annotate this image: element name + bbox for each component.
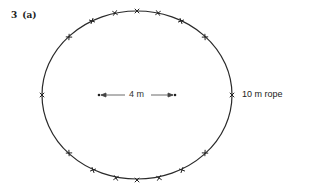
focus-point-left xyxy=(98,94,101,97)
question-number: 3 xyxy=(11,10,17,20)
focus-point-right xyxy=(174,94,177,97)
x-marker-icon xyxy=(89,18,95,24)
arrowhead-left-icon xyxy=(101,93,106,97)
question-part: (a) xyxy=(22,10,36,20)
arrowhead-right-icon xyxy=(168,93,173,97)
focal-distance-label: 4 m xyxy=(127,89,146,99)
question-label: 3(a) xyxy=(11,10,37,20)
rope-length-label: 10 m rope xyxy=(242,89,283,99)
